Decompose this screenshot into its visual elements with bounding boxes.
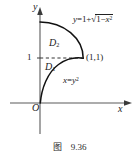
origin-label: O bbox=[32, 103, 39, 113]
caption-label: 图 bbox=[53, 142, 62, 152]
region-d1-subscript: 1 bbox=[52, 65, 55, 72]
equation-parabola: x=y2 bbox=[63, 76, 79, 85]
equation-circle: y=1+√1−x2 bbox=[73, 14, 113, 24]
caption-number: 9.36 bbox=[71, 142, 87, 152]
radicand-exponent: 2 bbox=[109, 15, 112, 21]
region-label-d1: D1 bbox=[45, 62, 55, 73]
radical-body: 1−x2 bbox=[95, 14, 113, 24]
parabola-rhs-exponent: 2 bbox=[76, 76, 79, 82]
y-axis-tick-label: 1 bbox=[27, 53, 32, 62]
figure-container: y x O 1 D2 D1 (1,1) x=y2 y=1+√1−x2 图9.36 bbox=[0, 0, 139, 160]
point-label-1-1: (1,1) bbox=[86, 53, 103, 62]
y-axis bbox=[37, 7, 43, 134]
x-axis-label: x bbox=[118, 104, 122, 114]
radicand-lead: 1− bbox=[96, 14, 105, 24]
figure-caption: 图9.36 bbox=[0, 140, 139, 153]
x-axis bbox=[10, 100, 132, 106]
y-axis-label: y bbox=[33, 2, 37, 12]
curve-upper-circle bbox=[40, 22, 83, 58]
region-d2-subscript: 2 bbox=[56, 41, 59, 48]
radical-sign-icon: √1−x2 bbox=[91, 14, 113, 24]
region-label-d2: D2 bbox=[49, 38, 59, 49]
